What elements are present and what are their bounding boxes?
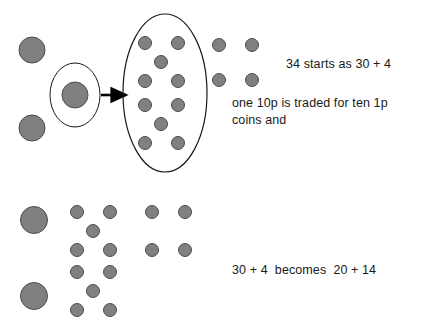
top-units-coin-group [213, 39, 259, 87]
ten-pence-coin [19, 37, 45, 63]
one-pence-coin [139, 137, 152, 150]
top-tens-coin-group [19, 37, 88, 141]
one-pence-coin [213, 39, 226, 52]
one-pence-coin [155, 56, 168, 69]
caption-becomes: 30 + 4 becomes 20 + 14 [232, 262, 437, 279]
one-pence-coin [213, 74, 226, 87]
one-pence-coin [246, 39, 259, 52]
one-pence-coin [104, 244, 117, 257]
one-pence-coin [146, 244, 159, 257]
traded-ones-ellipse-group [123, 14, 207, 172]
one-pence-coin [139, 37, 152, 50]
bottom-ones-lower-group [71, 266, 117, 317]
ten-pence-coin [62, 82, 88, 108]
one-pence-coin [104, 266, 117, 279]
one-pence-coin [71, 244, 84, 257]
traded-ones-coin-group [139, 37, 185, 150]
one-pence-coin [146, 206, 159, 219]
ten-pence-coin [19, 115, 45, 141]
one-pence-coin [71, 206, 84, 219]
one-pence-coin [155, 118, 168, 131]
one-pence-coin [246, 74, 259, 87]
one-pence-coin [139, 99, 152, 112]
ten-pence-coin [21, 207, 48, 234]
ten-pence-coin [21, 283, 48, 310]
one-pence-coin [104, 206, 117, 219]
place-value-diagram [0, 0, 443, 333]
one-pence-coin [71, 304, 84, 317]
traded-ones-ellipse [123, 14, 207, 172]
one-pence-coin [172, 37, 185, 50]
one-pence-coin [172, 99, 185, 112]
one-pence-coin [71, 266, 84, 279]
diagram-canvas: 34 starts as 30 + 4 one 10p is traded fo… [0, 0, 443, 333]
one-pence-coin [172, 137, 185, 150]
caption-starts-as: 34 starts as 30 + 4 [286, 56, 391, 73]
bottom-ones-upper-group [71, 206, 117, 257]
caption-trade-explanation: one 10p is traded for ten 1p coins and [232, 95, 432, 129]
one-pence-coin [179, 244, 192, 257]
one-pence-coin [172, 75, 185, 88]
one-pence-coin [104, 304, 117, 317]
one-pence-coin [87, 225, 100, 238]
bottom-units-coin-group [146, 206, 192, 257]
one-pence-coin [139, 75, 152, 88]
one-pence-coin [179, 206, 192, 219]
one-pence-coin [87, 285, 100, 298]
bottom-tens-coin-group [21, 207, 48, 310]
